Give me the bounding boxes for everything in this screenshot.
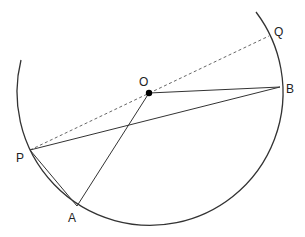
segment-PA [30, 150, 77, 206]
label-Q: Q [274, 25, 283, 39]
segment-OA [77, 93, 149, 206]
segment-PB [30, 87, 280, 150]
label-A: A [68, 211, 76, 225]
label-O: O [139, 75, 148, 89]
center-point-O [146, 90, 152, 96]
label-B: B [286, 82, 294, 96]
circle-arc [17, 12, 283, 225]
label-P: P [16, 151, 24, 165]
geometry-diagram: O B Q P A [0, 0, 305, 237]
